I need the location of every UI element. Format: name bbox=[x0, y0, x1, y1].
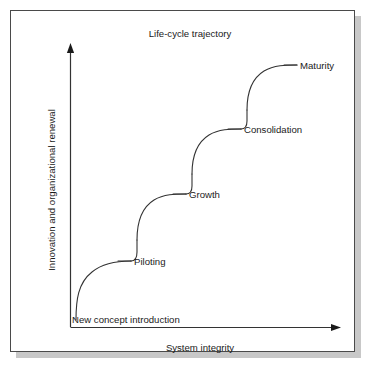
curve-segment-piloting-to-growth bbox=[137, 194, 186, 240]
chart-title: Life-cycle trajectory bbox=[149, 28, 232, 39]
figure-root: Life-cycle trajectory Innovation and org… bbox=[0, 0, 381, 376]
y-axis-arrowhead bbox=[67, 43, 74, 53]
x-axis-arrowhead bbox=[331, 324, 341, 331]
stage-label-consolidation: Consolidation bbox=[244, 124, 302, 135]
y-axis-label: Innovation and organizational renewal bbox=[46, 109, 57, 271]
label-leader-lines bbox=[118, 65, 297, 261]
stage-label-new-concept-introduction: New concept introduction bbox=[72, 314, 180, 325]
curve-segment-introduction-to-piloting bbox=[76, 261, 131, 320]
curve-segment-consolidation-to-maturity bbox=[247, 65, 297, 110]
life-cycle-trajectory-chart: Life-cycle trajectory Innovation and org… bbox=[0, 0, 381, 376]
trajectory-curve bbox=[76, 65, 297, 320]
x-axis-label: System integrity bbox=[166, 342, 234, 353]
stage-label-growth: Growth bbox=[189, 189, 220, 200]
stage-label-piloting: Piloting bbox=[134, 256, 165, 267]
curve-segment-growth-to-consolidation bbox=[192, 129, 241, 174]
stage-label-maturity: Maturity bbox=[300, 60, 334, 71]
